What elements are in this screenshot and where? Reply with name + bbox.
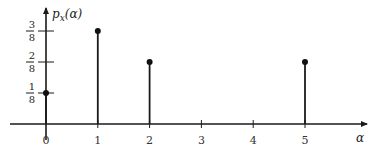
x-tick-label: 1 bbox=[94, 134, 101, 147]
x-tick-label: 2 bbox=[146, 134, 153, 147]
y-tick-denominator: 8 bbox=[29, 63, 35, 74]
pmf-stem-chart: 012345 182838 α px(α) bbox=[0, 0, 376, 150]
stem-point bbox=[302, 59, 308, 65]
y-tick-numerator: 1 bbox=[29, 81, 35, 92]
x-tick-label: 3 bbox=[198, 134, 205, 147]
y-tick-numerator: 3 bbox=[29, 19, 35, 30]
y-axis-label-arg: (α) bbox=[65, 7, 83, 21]
x-tick-label: 5 bbox=[302, 134, 309, 147]
x-axis-label: α bbox=[356, 131, 364, 145]
stem-point bbox=[95, 28, 101, 34]
stems bbox=[43, 28, 308, 124]
y-axis-label: px(α) bbox=[52, 7, 83, 23]
y-tick-denominator: 8 bbox=[29, 94, 35, 105]
y-ticks: 182838 bbox=[26, 19, 54, 105]
y-tick-numerator: 2 bbox=[29, 50, 35, 61]
x-tick-label: 4 bbox=[250, 134, 257, 147]
x-tick-label: 0 bbox=[43, 134, 50, 147]
stem-point bbox=[147, 59, 153, 65]
y-tick-denominator: 8 bbox=[29, 32, 35, 43]
stem-point bbox=[43, 90, 49, 96]
